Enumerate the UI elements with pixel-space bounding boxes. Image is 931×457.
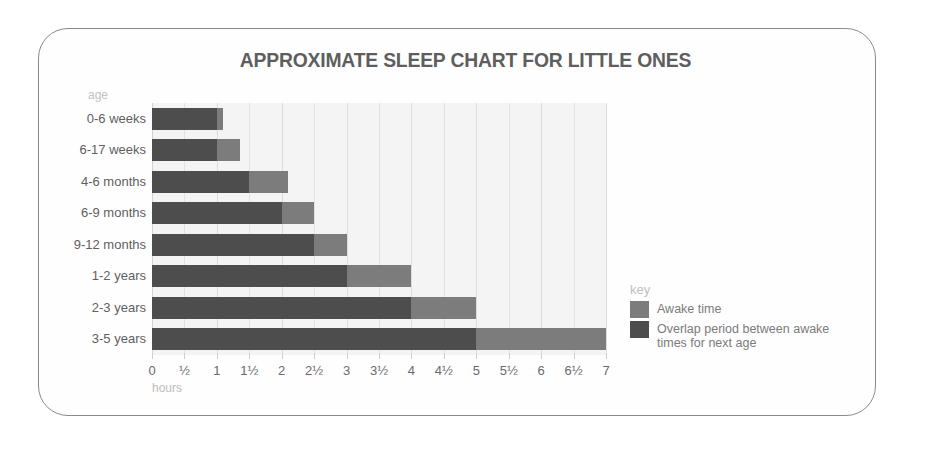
legend-items: Awake timeOverlap period between awake t…: [630, 301, 840, 350]
bar-segment-awake[interactable]: [152, 108, 217, 130]
y-axis-label: 3-5 years: [20, 328, 146, 350]
x-axis-tick-mark: [152, 353, 153, 359]
bar-rows: [152, 103, 606, 355]
x-axis-tick-mark: [217, 353, 218, 359]
legend-label: Awake time: [657, 301, 721, 316]
bar-segment-awake[interactable]: [152, 265, 347, 287]
y-axis-label: 0-6 weeks: [20, 108, 146, 130]
x-axis-tick-label: 6½: [565, 363, 583, 378]
x-axis-tick-label: 1: [213, 363, 220, 378]
y-axis-label: 4-6 months: [20, 171, 146, 193]
x-axis-tick-mark: [476, 353, 477, 359]
legend-label: Overlap period between awake times for n…: [657, 321, 840, 350]
chart-title: APPROXIMATE SLEEP CHART FOR LITTLE ONES: [37, 48, 894, 72]
x-axis-tick-label: 3½: [370, 363, 388, 378]
bar-row[interactable]: [152, 139, 606, 161]
x-axis-tick-label: 3: [343, 363, 350, 378]
bar-row[interactable]: [152, 202, 606, 224]
x-axis-tick-mark: [541, 353, 542, 359]
x-axis-caption: hours: [152, 381, 182, 395]
bar-row[interactable]: [152, 297, 606, 319]
x-axis-tick-label: 4: [408, 363, 415, 378]
bar-segment-awake[interactable]: [152, 171, 249, 193]
bar-segment-awake[interactable]: [152, 139, 217, 161]
x-axis-tick-mark: [509, 353, 510, 359]
legend-item[interactable]: Overlap period between awake times for n…: [630, 321, 840, 350]
bar-segment-awake[interactable]: [152, 234, 314, 256]
x-axis-tick-mark: [282, 353, 283, 359]
x-axis-tick-mark: [184, 353, 185, 359]
bar-segment-awake[interactable]: [152, 202, 282, 224]
x-axis-tick-mark: [444, 353, 445, 359]
y-axis-label: 9-12 months: [20, 234, 146, 256]
bar-row[interactable]: [152, 234, 606, 256]
x-axis-tick-mark: [574, 353, 575, 359]
x-axis-tick-label: 2: [278, 363, 285, 378]
bar-segment-awake[interactable]: [152, 297, 411, 319]
y-axis-caption: age: [88, 88, 108, 102]
gridline-7: [606, 103, 607, 355]
x-axis-tick-mark: [314, 353, 315, 359]
bar-segment-awake[interactable]: [152, 328, 476, 350]
x-axis-tick-label: 1½: [240, 363, 258, 378]
y-axis-label: 1-2 years: [20, 265, 146, 287]
x-axis: 0½11½22½33½44½55½66½7: [152, 357, 606, 381]
legend-swatch-icon: [630, 321, 649, 338]
legend-swatch-icon: [630, 301, 649, 318]
x-axis-tick-label: ½: [179, 363, 190, 378]
x-axis-tick-label: 5: [473, 363, 480, 378]
legend-title: key: [630, 282, 840, 297]
x-axis-tick-mark: [411, 353, 412, 359]
x-axis-tick-label: 4½: [435, 363, 453, 378]
y-axis-label: 6-17 weeks: [20, 139, 146, 161]
x-axis-tick-mark: [249, 353, 250, 359]
bar-row[interactable]: [152, 108, 606, 130]
bar-row[interactable]: [152, 171, 606, 193]
bar-row[interactable]: [152, 328, 606, 350]
y-axis-label: 6-9 months: [20, 202, 146, 224]
chart-page: APPROXIMATE SLEEP CHART FOR LITTLE ONES …: [0, 0, 931, 457]
y-axis-labels: 0-6 weeks6-17 weeks4-6 months6-9 months9…: [20, 103, 146, 355]
x-axis-tick-mark: [379, 353, 380, 359]
legend: key Awake timeOverlap period between awa…: [630, 282, 840, 353]
y-axis-label: 2-3 years: [20, 297, 146, 319]
x-axis-tick-label: 7: [602, 363, 609, 378]
x-axis-tick-label: 2½: [305, 363, 323, 378]
legend-item[interactable]: Awake time: [630, 301, 840, 318]
x-axis-tick-label: 6: [538, 363, 545, 378]
x-axis-tick-mark: [606, 353, 607, 359]
plot-area: [152, 103, 606, 355]
x-axis-tick-label: 0: [148, 363, 155, 378]
bar-row[interactable]: [152, 265, 606, 287]
x-axis-tick-mark: [347, 353, 348, 359]
x-axis-tick-label: 5½: [500, 363, 518, 378]
